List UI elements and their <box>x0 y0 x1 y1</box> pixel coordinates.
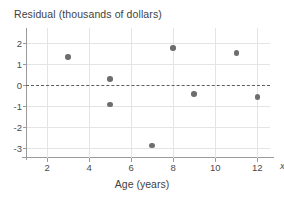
plot-area: 210-1-2-324681012x <box>26 32 270 158</box>
y-axis-line <box>26 28 27 160</box>
y-gridline <box>26 43 270 44</box>
x-tick-label: 2 <box>44 162 49 173</box>
y-gridline <box>26 148 270 149</box>
x-tick-label: 10 <box>210 162 221 173</box>
y-tick <box>23 43 27 44</box>
y-tick-label: -3 <box>14 142 22 153</box>
x-gridline <box>89 28 90 158</box>
x-gridline <box>215 28 216 158</box>
x-gridline <box>257 28 258 158</box>
x-axis-variable-label: x <box>280 160 284 171</box>
y-tick-label: 2 <box>17 37 22 48</box>
data-point <box>191 91 197 97</box>
y-gridline <box>26 64 270 65</box>
data-point <box>234 50 240 56</box>
y-tick-label: 0 <box>17 79 22 90</box>
y-tick <box>23 127 27 128</box>
zero-reference-line <box>26 85 270 86</box>
x-tick-label: 12 <box>252 162 263 173</box>
y-tick-label: -2 <box>14 121 22 132</box>
data-point <box>170 45 176 51</box>
x-tick-label: 8 <box>171 162 176 173</box>
x-axis-line <box>22 157 274 158</box>
data-point <box>107 76 113 82</box>
x-gridline <box>131 28 132 158</box>
y-tick <box>23 64 27 65</box>
data-point <box>107 102 113 108</box>
data-point <box>65 54 71 60</box>
y-tick-label: 1 <box>17 58 22 69</box>
y-gridline <box>26 106 270 107</box>
y-gridline <box>26 127 270 128</box>
x-tick-label: 4 <box>86 162 91 173</box>
x-axis-title: Age (years) <box>0 178 284 190</box>
data-point <box>149 143 155 149</box>
y-tick-label: -1 <box>14 100 22 111</box>
y-tick <box>23 106 27 107</box>
x-tick-label: 6 <box>129 162 134 173</box>
chart-title: Residual (thousands of dollars) <box>14 8 162 20</box>
y-tick <box>23 148 27 149</box>
data-point <box>255 94 261 100</box>
residual-plot: Residual (thousands of dollars) 210-1-2-… <box>0 0 284 200</box>
x-gridline <box>47 28 48 158</box>
